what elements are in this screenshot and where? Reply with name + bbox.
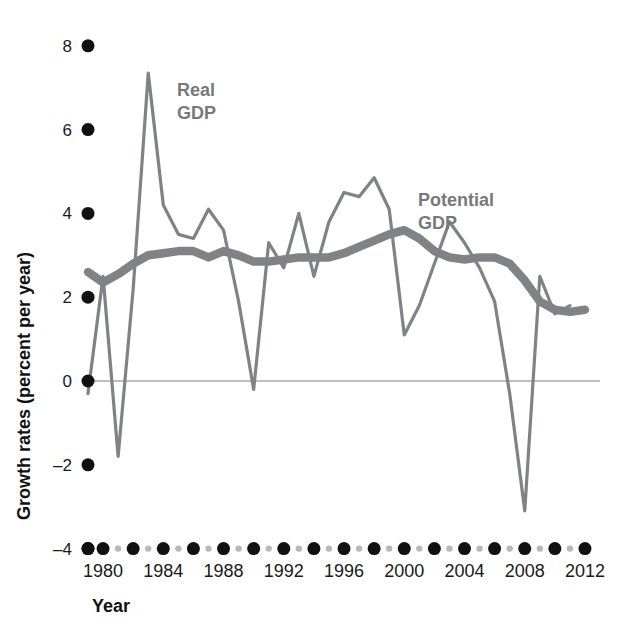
x-tick-label: 2004	[444, 561, 484, 581]
x-tick-dot-major	[368, 542, 381, 555]
chart-svg: 86420–2–4 198019841988199219962000200420…	[0, 0, 627, 644]
x-tick-dot-minor	[567, 545, 573, 551]
x-tick-dot-major	[217, 542, 230, 555]
x-tick-dot-minor	[326, 545, 332, 551]
x-tick-dot-minor	[266, 545, 272, 551]
y-tick-dot	[82, 458, 95, 471]
x-tick-label: 1992	[264, 561, 304, 581]
series-annotation-line2: GDP	[418, 213, 457, 233]
x-tick-label: 2012	[565, 561, 605, 581]
x-tick-label: 2000	[384, 561, 424, 581]
x-tick-label: 2008	[505, 561, 545, 581]
x-tick-dot-major	[458, 542, 471, 555]
x-tick-dot-major	[398, 542, 411, 555]
y-tick-label: –2	[53, 456, 72, 475]
x-tick-dot-minor	[537, 545, 543, 551]
x-tick-dot-major	[338, 542, 351, 555]
x-tick-dot-minor	[356, 545, 362, 551]
x-tick-dot-major	[578, 542, 591, 555]
y-tick-dot	[82, 291, 95, 304]
x-tick-dot-minor	[476, 545, 482, 551]
y-tick-dot	[82, 207, 95, 220]
x-tick-dot-major	[548, 542, 561, 555]
x-tick-dot-minor	[296, 545, 302, 551]
x-tick-dot-major	[82, 542, 95, 555]
x-tick-dot-minor	[235, 545, 241, 551]
x-tick-dot-major	[428, 542, 441, 555]
x-tick-dot-minor	[416, 545, 422, 551]
y-tick-dot	[82, 123, 95, 136]
x-tick-dot-major	[157, 542, 170, 555]
x-axis-title: Year	[92, 596, 130, 616]
x-tick-dot-minor	[175, 545, 181, 551]
x-tick-dot-major	[187, 542, 200, 555]
series-annotation-line1: Real	[177, 80, 215, 100]
x-tick-label: 1996	[324, 561, 364, 581]
x-tick-dot-minor	[115, 545, 121, 551]
y-tick-label: 8	[63, 37, 72, 56]
y-axis-title: Growth rates (percent per year)	[14, 252, 34, 520]
x-tick-dot-minor	[446, 545, 452, 551]
x-tick-dot-major	[247, 542, 260, 555]
x-tick-dot-minor	[386, 545, 392, 551]
x-tick-dot-major	[518, 542, 531, 555]
y-tick-label: 2	[63, 288, 72, 307]
x-tick-dot-major	[488, 542, 501, 555]
y-tick-label: –4	[53, 540, 72, 559]
series-annotation-line1: Potential	[418, 190, 494, 210]
x-tick-dot-minor	[145, 545, 151, 551]
x-tick-dot-major	[97, 542, 110, 555]
x-tick-label: 1988	[204, 561, 244, 581]
y-tick-label: 0	[63, 372, 72, 391]
series-annotation-line2: GDP	[177, 103, 216, 123]
x-tick-dot-major	[277, 542, 290, 555]
y-tick-label: 4	[63, 204, 72, 223]
gdp-growth-chart: 86420–2–4 198019841988199219962000200420…	[0, 0, 627, 644]
x-tick-dot-major	[307, 542, 320, 555]
y-tick-dot	[82, 39, 95, 52]
y-tick-label: 6	[63, 121, 72, 140]
x-tick-label: 1980	[83, 561, 123, 581]
x-tick-dot-minor	[506, 545, 512, 551]
x-tick-dot-major	[127, 542, 140, 555]
x-tick-label: 1984	[143, 561, 183, 581]
x-axis-tick-labels: 198019841988199219962000200420082012	[83, 561, 605, 581]
x-tick-dot-minor	[205, 545, 211, 551]
y-tick-dot	[82, 375, 95, 388]
